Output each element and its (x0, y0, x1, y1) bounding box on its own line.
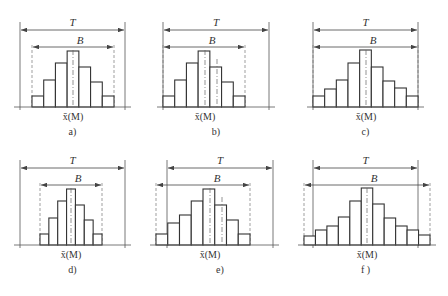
histogram-bar (222, 82, 234, 107)
histogram-bar (233, 96, 245, 107)
histogram-bar (304, 236, 315, 245)
panel-caption: a) (69, 126, 77, 138)
histogram-bar (384, 218, 395, 245)
mean-label: x̄(M) (200, 249, 221, 261)
panel-caption: c) (362, 126, 370, 138)
histogram-bar (395, 88, 407, 107)
histogram-panel-c: TBx̄(M)c) (307, 16, 424, 138)
histogram-bar (44, 80, 56, 107)
histogram-bar (163, 96, 175, 107)
tolerance-label: T (69, 16, 76, 28)
histogram-bar (91, 82, 103, 107)
histogram-bar (191, 201, 203, 245)
histogram-bar (373, 204, 384, 245)
histogram-bar (203, 189, 215, 245)
histogram-bar (360, 50, 372, 107)
histogram-bar (210, 67, 222, 107)
histogram-bar (361, 188, 372, 245)
tolerance-label: T (362, 16, 369, 28)
tolerance-label: T (213, 16, 220, 28)
tolerance-label: T (217, 154, 224, 166)
histogram-bar (371, 67, 383, 107)
histogram-bar (175, 80, 187, 107)
histogram-bar (419, 235, 430, 245)
histogram-bar (215, 205, 227, 245)
histogram-bar (180, 215, 192, 245)
tolerance-label: T (362, 154, 369, 166)
histogram-bar (325, 89, 337, 107)
histogram-bar (93, 234, 102, 245)
spread-label: B (371, 172, 378, 184)
histogram-bar (84, 220, 93, 245)
mean-label: x̄(M) (356, 111, 377, 123)
mean-label: x̄(M) (63, 111, 84, 123)
histogram-bar (79, 67, 91, 107)
panel-caption: d) (68, 264, 76, 276)
histogram-bar (396, 226, 407, 245)
histogram-bar (75, 205, 84, 245)
panel-caption: e) (216, 264, 224, 276)
histogram-panel-f: TBx̄(M)f ) (298, 154, 436, 276)
histogram-bar (327, 226, 338, 245)
mean-label: x̄(M) (61, 249, 82, 261)
histogram-bar (40, 234, 49, 245)
tolerance-label: T (69, 154, 76, 166)
histogram-bar (407, 230, 418, 245)
histogram-panel-e: TBx̄(M)e) (150, 154, 279, 276)
histogram-bar (67, 189, 76, 245)
histogram-panel-d: TBx̄(M)d) (14, 154, 131, 276)
histogram-bar (238, 234, 250, 245)
histogram-bar (336, 80, 348, 107)
histogram-bar (58, 201, 67, 245)
histogram-bar (338, 217, 349, 245)
histogram-bar (406, 96, 418, 107)
mean-label: x̄(M) (195, 111, 216, 123)
spread-label: B (75, 172, 82, 184)
mean-label: x̄(M) (357, 249, 378, 261)
histogram-figure: TBx̄(M)a)TBx̄(M)b)TBx̄(M)c)TBx̄(M)d)TBx̄… (0, 0, 448, 296)
panel-caption: f ) (361, 264, 370, 276)
histogram-panel-a: TBx̄(M)a) (14, 16, 131, 138)
panel-caption: b) (212, 126, 220, 138)
histogram-bar (383, 81, 395, 107)
histogram-bar (350, 201, 361, 245)
spread-label: B (370, 34, 377, 46)
histogram-bar (348, 63, 360, 107)
spread-label: B (214, 172, 221, 184)
histogram-panel-b: TBx̄(M)b) (157, 16, 275, 138)
histogram-bar (55, 63, 67, 107)
histogram-bar (168, 223, 180, 245)
histogram-bar (315, 230, 326, 245)
histogram-bar (156, 234, 168, 245)
histogram-bar (32, 96, 44, 107)
histogram-bar (67, 51, 79, 107)
histogram-bar (198, 51, 210, 107)
spread-label: B (209, 34, 216, 46)
spread-label: B (77, 34, 84, 46)
histogram-bar (227, 220, 239, 245)
histogram-bar (186, 63, 198, 107)
histogram-bar (102, 96, 114, 107)
histogram-bar (49, 218, 58, 245)
histogram-bar (313, 96, 325, 107)
